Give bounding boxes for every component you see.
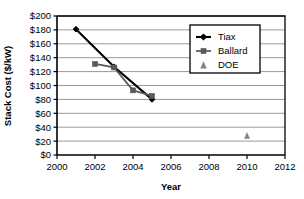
- x-tick-label: 2010: [236, 161, 257, 172]
- y-tick-label: $120: [30, 66, 51, 77]
- y-tick-label: $100: [30, 80, 51, 91]
- y-tick-label: $160: [30, 38, 51, 49]
- y-axis-title: Stack Cost ($/kW): [2, 46, 13, 126]
- marker-square: [112, 65, 117, 70]
- x-tick-label: 2000: [46, 161, 67, 172]
- y-axis-tick-labels: $0$20$40$60$80$100$120$140$160$180$200: [30, 10, 51, 160]
- x-tick-label: 2012: [274, 161, 295, 172]
- y-tick-label: $20: [35, 136, 51, 147]
- stack-cost-line-chart: $0$20$40$60$80$100$120$140$160$180$200 2…: [0, 0, 304, 199]
- x-tick-label: 2008: [198, 161, 219, 172]
- y-tick-label: $60: [35, 108, 51, 119]
- y-tick-label: $0: [40, 149, 51, 160]
- x-axis-tick-labels: 2000200220042006200820102012: [46, 161, 295, 172]
- x-tick-label: 2004: [122, 161, 143, 172]
- marker-square: [93, 61, 98, 66]
- chart-container: $0$20$40$60$80$100$120$140$160$180$200 2…: [0, 0, 304, 199]
- marker-square: [150, 93, 155, 98]
- chart-legend: TiaxBallardDOE: [190, 25, 260, 73]
- marker-square: [131, 88, 136, 93]
- y-tick-label: $80: [35, 94, 51, 105]
- legend-label-ballard: Ballard: [218, 45, 248, 56]
- legend-label-tiax: Tiax: [218, 31, 236, 42]
- y-tick-label: $40: [35, 122, 51, 133]
- legend-label-doe: DOE: [218, 59, 239, 70]
- marker-square: [201, 49, 206, 54]
- y-tick-label: $180: [30, 24, 51, 35]
- x-tick-label: 2006: [160, 161, 181, 172]
- x-tick-label: 2002: [84, 161, 105, 172]
- x-axis-title: Year: [161, 181, 181, 192]
- y-tick-label: $140: [30, 52, 51, 63]
- y-tick-label: $200: [30, 10, 51, 21]
